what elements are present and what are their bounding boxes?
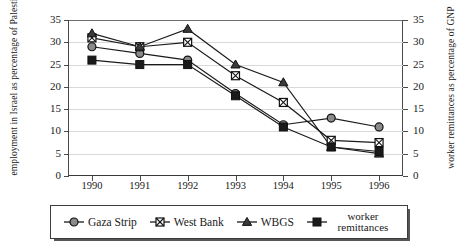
crossed-square-marker [156,218,164,226]
left-axis-tick-label: 25 [35,59,61,70]
x-axis-tick [283,176,284,181]
right-axis-tick-label: 10 [413,125,439,136]
circle-marker [88,43,96,51]
legend-item[interactable]: WBGS [236,216,294,228]
crossed-square-marker [279,98,287,106]
x-axis-tick-label: 1990 [70,180,114,191]
right-axis-tick-label: 35 [413,14,439,25]
crossed-square-marker [149,216,171,228]
left-axis-tick-label: 10 [35,125,61,136]
circle-marker [70,218,78,226]
left-axis-tick-label: 5 [35,148,61,159]
right-axis-tick [403,65,408,66]
legend-label: worker remittances [331,211,395,234]
filled-square-marker [313,218,321,226]
filled-square-marker [136,61,144,69]
right-axis-tick-label: 15 [413,103,439,114]
left-axis-tick [64,65,69,66]
triangle-marker [236,216,258,228]
right-axis-tick [403,154,408,155]
x-axis-tick-label: 1991 [118,180,162,191]
filled-square-marker [88,56,96,64]
x-axis-tick [92,176,93,181]
x-axis-tick [140,176,141,181]
plot-area [68,20,403,176]
right-axis-tick [403,87,408,88]
left-axis-tick [64,176,69,177]
circle-marker [63,216,85,228]
series-line [92,47,379,127]
legend-label: West Bank [174,216,224,228]
left-axis-tick [64,154,69,155]
right-axis-tick [403,20,408,21]
filled-square-marker [306,216,328,228]
x-axis-tick-label: 1993 [214,180,258,191]
right-axis-tick-label: 30 [413,36,439,47]
triangle-marker [183,24,192,32]
left-axis-tick-label: 20 [35,81,61,92]
left-axis-tick-label: 35 [35,14,61,25]
crossed-square-marker [184,38,192,46]
x-axis-tick [188,176,189,181]
circle-marker [327,114,335,122]
triangle-marker [87,29,96,37]
left-axis-tick-label: 0 [35,170,61,181]
crossed-square-marker [232,72,240,80]
filled-square-marker [279,123,287,131]
right-axis-tick [403,109,408,110]
filled-square-marker [375,147,383,155]
right-axis-tick [403,131,408,132]
x-axis-tick [236,176,237,181]
right-axis-title: worker remittances as percentage of GNP [446,0,457,176]
x-axis-tick [331,176,332,181]
chart-figure: employment in Israel as percentage of Pa… [0,0,466,247]
right-axis-tick-label: 5 [413,148,439,159]
chart-legend: Gaza StripWest BankWBGSworker remittance… [50,205,408,239]
left-axis-tick [64,20,69,21]
circle-marker [375,123,383,131]
left-axis-tick [64,109,69,110]
right-axis-tick-label: 20 [413,81,439,92]
right-axis-tick [403,176,408,177]
right-axis-tick [403,42,408,43]
filled-square-marker [327,143,335,151]
x-axis-tick [379,176,380,181]
right-axis-tick-label: 25 [413,59,439,70]
filled-square-marker [232,92,240,100]
legend-item[interactable]: worker remittances [306,211,395,234]
left-axis-tick [64,87,69,88]
left-axis-tick-label: 15 [35,103,61,114]
triangle-marker [231,60,240,68]
x-axis-tick-label: 1992 [166,180,210,191]
x-axis-tick-label: 1996 [357,180,401,191]
legend-item[interactable]: Gaza Strip [63,216,137,228]
left-axis-title: employment in Israel as percentage of Pa… [9,0,20,176]
right-axis-tick-label: 0 [413,170,439,181]
left-axis-tick [64,131,69,132]
legend-label: Gaza Strip [88,216,137,228]
x-axis-tick-label: 1994 [261,180,305,191]
left-axis-tick-label: 30 [35,36,61,47]
filled-square-marker [184,61,192,69]
crossed-square-marker [375,139,383,147]
x-axis-tick-label: 1995 [309,180,353,191]
legend-item[interactable]: West Bank [149,216,224,228]
legend-label: WBGS [261,216,294,228]
left-axis-tick [64,42,69,43]
series-layer [68,20,403,176]
